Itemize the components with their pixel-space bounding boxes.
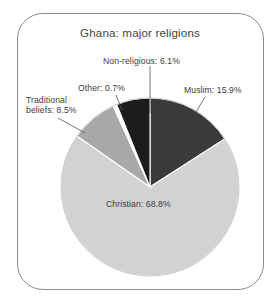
pie-chart-svg [0,0,280,305]
leader-line-muslim [196,97,205,112]
slice-label-other: Other: 0.7% [78,83,125,93]
slice-label-non-religious: Non-religious: 6.1% [103,56,180,66]
pie-slices-group [61,98,239,276]
slice-label-muslim: Muslim: 15.9% [184,85,242,95]
pie-chart-figure: Ghana: major religions Non-religious: 6.… [0,0,280,305]
slice-label-traditional-line2: beliefs: 8.5% [26,105,77,115]
slice-label-christian: Christian: 68.8% [106,199,171,209]
leader-line-traditional [58,118,85,133]
slice-label-traditional-line1: Traditional [26,95,67,105]
slice-label-traditional-beliefs: Traditional beliefs: 8.5% [26,95,92,116]
